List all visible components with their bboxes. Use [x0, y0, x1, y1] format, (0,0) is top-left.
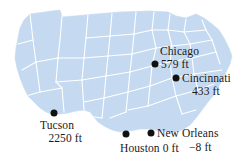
label-cincinnati-elevation: 433 ft [192, 85, 220, 98]
label-new-orleans-name: New Orleans [157, 127, 218, 140]
map-landmass [15, 10, 232, 132]
label-cincinnati-name: Cincinnati [182, 72, 231, 85]
city-dot-chicago [152, 61, 159, 68]
label-houston: Houston 0 ft [120, 142, 179, 155]
label-tucson-name: Tucson [40, 119, 74, 132]
label-chicago-elevation: 579 ft [161, 58, 189, 71]
city-dot-tucson [51, 110, 58, 117]
label-chicago-name: Chicago [160, 45, 199, 58]
city-dot-cincinnati [173, 75, 180, 82]
city-dot-houston [123, 131, 130, 138]
us-elevation-map-figure: Chicago 579 ft Cincinnati 433 ft Tucson … [0, 0, 244, 163]
label-tucson-elevation: 2250 ft [48, 132, 82, 145]
label-new-orleans-elevation: −8 ft [189, 141, 212, 154]
city-dot-new-orleans [148, 130, 155, 137]
